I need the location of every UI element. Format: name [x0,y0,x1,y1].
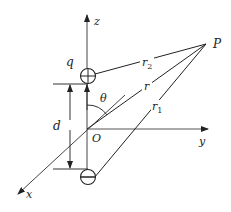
negative-charge-icon [81,170,96,185]
x-axis: x [18,95,125,201]
positive-charge-icon [81,69,96,84]
y-axis: y [87,129,208,148]
separation-label: d [53,119,61,133]
origin-label: O [92,132,101,145]
z-axis-label: z [93,15,100,28]
charge-label: q [66,55,74,69]
y-axis-label: y [198,135,206,148]
theta-label: θ [100,92,107,105]
dipole-diagram: z y x O d q r2 r r1 θ P [0,0,231,212]
theta-angle: θ [87,92,107,115]
x-axis-label: x [26,188,33,201]
r-label: r [144,80,150,93]
z-axis: z [87,15,100,169]
point-p-label: P [212,37,222,51]
